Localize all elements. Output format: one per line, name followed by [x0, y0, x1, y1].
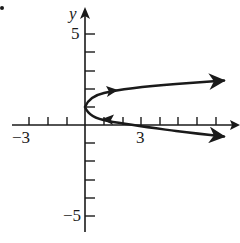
parabola-curve [85, 81, 224, 137]
y-tick-label-neg5: −5 [63, 206, 81, 225]
y-axis-label: y [67, 4, 77, 23]
lower-branch [85, 107, 224, 137]
x-tick-label-3: 3 [136, 128, 145, 147]
y-axis [80, 7, 95, 232]
upper-branch [85, 81, 224, 108]
graph: y 5 −5 −3 3 [0, 0, 240, 243]
x-tick-label-neg3: −3 [12, 128, 30, 147]
bullet-dot [0, 6, 4, 10]
y-tick-label-5: 5 [71, 24, 80, 43]
